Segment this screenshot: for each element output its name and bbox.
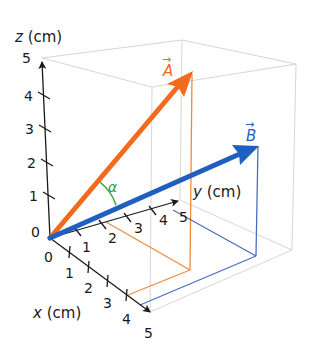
z-tick-3: 3: [25, 121, 34, 137]
vector-a: [50, 71, 193, 238]
z-axis: [42, 62, 50, 238]
diagram-canvas: 5 4 3 2 1 0 z (cm) 0 1 2 3 4 5 x (cm) 1 …: [0, 0, 319, 352]
x-tick-1: 1: [65, 265, 74, 281]
vector-a-letter: A: [162, 62, 173, 80]
z-tick-1: 1: [29, 188, 38, 204]
x-tick-2: 2: [84, 280, 93, 296]
y-tick-5: 5: [179, 209, 188, 225]
x-tick-3: 3: [103, 295, 112, 311]
vector-diagram: 5 4 3 2 1 0 z (cm) 0 1 2 3 4 5 x (cm) 1 …: [0, 0, 319, 352]
y-tick-2: 2: [108, 230, 117, 246]
x-tick-0: 0: [44, 249, 53, 265]
y-tick-4: 4: [159, 212, 168, 228]
y-tick-1: 1: [82, 239, 91, 255]
y-tick-3: 3: [134, 220, 143, 236]
z-tick-2: 2: [27, 155, 36, 171]
y-axis-title: y (cm): [192, 183, 241, 201]
vector-b-label: → B: [245, 118, 256, 145]
vector-a-label: → A: [162, 53, 173, 80]
x-tick-4: 4: [122, 311, 131, 327]
x-axis-title: x (cm): [32, 304, 81, 322]
angle-label: α: [108, 179, 118, 195]
x-tick-5: 5: [144, 325, 153, 341]
vector-a-projection: [106, 74, 192, 295]
z-tick-5: 5: [22, 50, 31, 66]
z-axis-title: z (cm): [14, 28, 62, 46]
z-tick-4: 4: [24, 88, 33, 104]
vector-b-letter: B: [246, 127, 256, 145]
z-tick-0: 0: [31, 224, 40, 240]
